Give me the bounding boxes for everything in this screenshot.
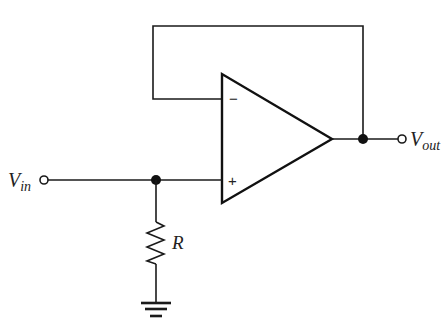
ground-icon (141, 303, 171, 316)
resistor (147, 180, 164, 303)
resistor-label: R (171, 232, 184, 253)
resistor-zigzag-icon (147, 222, 164, 264)
noninverting-input-sign: + (228, 172, 237, 189)
feedback-loop (153, 26, 363, 139)
circuit-diagram: − + Vout Vin R (0, 0, 445, 334)
output-junction-dot (358, 134, 368, 144)
output-wire (332, 134, 406, 144)
input-terminal (40, 176, 48, 184)
opamp-triangle (222, 74, 332, 203)
input-wire (40, 175, 222, 185)
inverting-input-sign: − (229, 90, 238, 107)
opamp: − + (222, 74, 332, 203)
vout-label: Vout (410, 128, 441, 153)
output-terminal (398, 135, 406, 143)
vin-label: Vin (8, 169, 31, 194)
